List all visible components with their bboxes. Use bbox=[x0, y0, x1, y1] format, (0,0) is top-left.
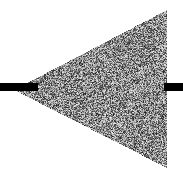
left-bar bbox=[0, 83, 38, 91]
right-bar bbox=[164, 83, 183, 91]
figure-canvas bbox=[0, 0, 183, 179]
